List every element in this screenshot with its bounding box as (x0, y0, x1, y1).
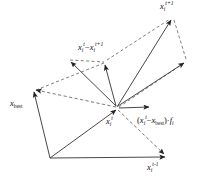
label-x-t-plus-1-sup: t+1 (165, 0, 173, 6)
vector-diagram-figure: xit+1 xit−xit+1 xbest xit (xit−xbest)·fi… (0, 0, 201, 187)
label-diff-sub2: i (93, 47, 95, 53)
edge-hub-to-upper-left (71, 62, 116, 106)
label-x-difference: xit−xit+1 (78, 43, 103, 52)
edge-hub-to-top-right (117, 20, 171, 107)
label-x-best: xbest (10, 99, 22, 108)
solid-edges (34, 20, 184, 158)
label-x-i-t-plus-1: xit+1 (160, 2, 173, 11)
edge-mid-upper-to-top-right-dashed (107, 19, 170, 60)
edge-hub-to-mid-upper (105, 65, 116, 106)
label-best-attraction-term: (xit−xbest)·fi (137, 116, 174, 125)
label-diff-sup2: t+1 (95, 41, 103, 47)
label-x-t-minus-1-sup: t-1 (152, 161, 158, 167)
edge-bottom-left-to-x-best (34, 92, 50, 158)
label-best-term-sub1: i (144, 120, 146, 126)
edge-x-best-to-mid-upper-dashed (36, 63, 104, 90)
edge-bottom-left-to-bottom-right (50, 157, 165, 158)
label-x-best-sub: best (14, 103, 23, 109)
edge-top-right-to-right-mid-dashed (174, 20, 186, 59)
edge-hub-to-right-mid (118, 63, 184, 106)
label-best-term-sub2: best (155, 120, 164, 126)
edge-hub-to-x-best-dashed (36, 90, 116, 107)
label-best-term-sub3: i (172, 120, 174, 126)
edge-upper-left-to-mid-upper-dashed (70, 60, 104, 62)
edge-hub-to-short-right (119, 107, 149, 108)
label-x-i-t-minus-1: xit-1 (147, 163, 159, 172)
label-x-i-t: xit (106, 117, 113, 126)
label-x-i-t-sup: t (111, 115, 113, 121)
vector-diagram-canvas (0, 0, 201, 187)
